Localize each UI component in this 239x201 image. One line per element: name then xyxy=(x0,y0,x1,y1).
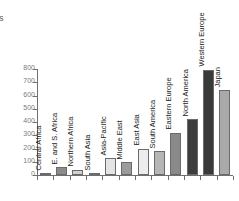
bar-category-label: South America xyxy=(148,100,156,149)
bar-group[interactable]: Middle East xyxy=(121,7,132,175)
y-tick-label: 600 xyxy=(23,91,35,98)
bar-category-label: Central Africa xyxy=(34,125,42,170)
x-tick-mark xyxy=(168,176,169,180)
x-tick-mark xyxy=(102,176,103,180)
bar[interactable] xyxy=(187,119,198,175)
y-tick-label: 800 xyxy=(23,64,35,71)
x-tick-mark xyxy=(86,176,87,180)
bar-category-label: South Asia xyxy=(83,135,91,171)
bar[interactable] xyxy=(72,170,83,175)
x-tick-mark xyxy=(217,176,218,180)
bar-category-label: Asia-Pacific xyxy=(99,116,107,155)
bar-category-label: Eastern Europe xyxy=(165,77,173,129)
x-tick-mark xyxy=(184,176,185,180)
x-tick-mark xyxy=(200,176,201,180)
y-tick-label: 0 xyxy=(31,170,35,177)
bar[interactable] xyxy=(121,162,132,175)
bar[interactable] xyxy=(105,158,116,175)
x-tick-mark xyxy=(135,176,136,180)
bar[interactable] xyxy=(170,133,181,175)
y-tick-label: 400 xyxy=(23,117,35,124)
bar-category-label: North America xyxy=(181,69,189,117)
bar-group[interactable]: Japan xyxy=(219,7,230,175)
bar[interactable] xyxy=(219,90,230,175)
bar[interactable] xyxy=(154,151,165,175)
bar-category-label: East Asia xyxy=(132,114,140,145)
bar-category-label: E. and S. Africa xyxy=(50,112,58,164)
bar-group[interactable]: Western Europe xyxy=(203,7,214,175)
bar-group[interactable]: East Asia xyxy=(138,7,149,175)
bar[interactable] xyxy=(89,173,100,175)
clipped-caption-text: rs xyxy=(0,13,4,23)
bar-category-label: Middle East xyxy=(116,120,124,159)
x-tick-mark xyxy=(233,176,234,180)
bar[interactable] xyxy=(138,149,149,176)
plot-area: 0100200300400500600700800 Central Africa… xyxy=(37,8,233,178)
bar-series: Central AfricaE. and S. AfricaNorthern A… xyxy=(37,8,233,176)
bar-category-label: Western Europe xyxy=(197,13,205,67)
x-tick-mark xyxy=(151,176,152,180)
bar[interactable] xyxy=(40,173,51,175)
bar-chart-figure: rs 0100200300400500600700800 Central Afr… xyxy=(0,0,239,201)
x-tick-mark xyxy=(37,176,38,180)
x-tick-mark xyxy=(119,176,120,180)
y-tick-label: 700 xyxy=(23,77,35,84)
bar[interactable] xyxy=(56,167,67,175)
x-tick-mark xyxy=(70,176,71,180)
bar-category-label: Japan xyxy=(214,67,222,87)
y-tick-label: 500 xyxy=(23,104,35,111)
bar-category-label: Northern Africa xyxy=(67,117,75,167)
x-tick-mark xyxy=(53,176,54,180)
